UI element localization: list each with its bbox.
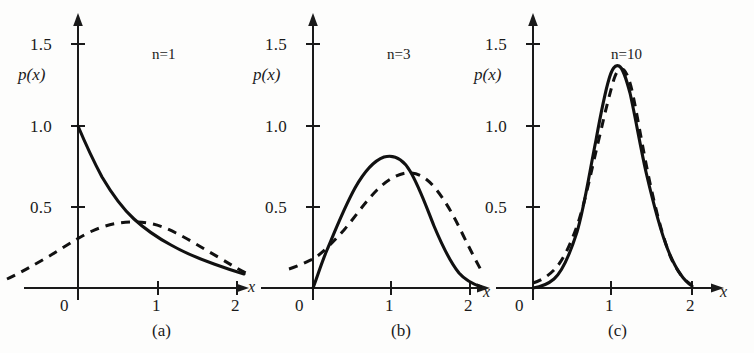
x-axis-label: x	[720, 284, 727, 300]
y-tick-label-1.0: 1.0	[265, 118, 287, 135]
panel-a: 1.5 1.0 0.5 p(x) 0 1 2 x n=1 (a)	[0, 0, 251, 353]
panel-b-annotation: n=3	[387, 47, 410, 62]
y-tick-label-1.0: 1.0	[30, 118, 52, 135]
y-axis-arrow-icon	[73, 13, 83, 26]
y-tick-label-1.5: 1.5	[265, 36, 287, 53]
x-tick-label-2: 2	[464, 297, 473, 314]
y-axis-arrow-icon	[308, 13, 318, 26]
x-tick-label-0: 0	[295, 297, 304, 314]
y-tick-label-0.5: 0.5	[485, 199, 507, 216]
panel-c: 1.5 1.0 0.5 p(x) 0 1 2 x n=10 (c)	[496, 0, 754, 353]
panel-a-annotation: n=1	[152, 47, 175, 62]
y-tick-label-0.5: 0.5	[265, 199, 287, 216]
y-tick-label-1.5: 1.5	[485, 36, 507, 53]
figure-three-panel-probability-densities: 1.5 1.0 0.5 p(x) 0 1 2 x n=1 (a) 1.5 1	[0, 0, 754, 353]
x-tick-label-0: 0	[515, 297, 524, 314]
y-tick-label-1.0: 1.0	[485, 118, 507, 135]
panel-a-solid-curve	[78, 126, 244, 274]
panel-b-caption: (b)	[391, 322, 411, 339]
x-tick-label-0: 0	[60, 297, 69, 314]
panel-b: 1.5 1.0 0.5 p(x) 0 1 2 x n=3 (b)	[251, 0, 496, 353]
x-tick-label-1: 1	[152, 297, 161, 314]
panel-a-caption: (a)	[152, 322, 171, 339]
x-tick-label-1: 1	[605, 297, 614, 314]
panel-b-plot	[251, 0, 496, 353]
panel-c-annotation: n=10	[611, 47, 642, 62]
panel-b-dashed-curve	[289, 173, 481, 270]
y-axis-label: p(x)	[253, 66, 280, 83]
y-axis-label: p(x)	[474, 66, 501, 83]
y-axis-label: p(x)	[18, 66, 45, 83]
x-tick-label-1: 1	[385, 297, 394, 314]
panel-c-caption: (c)	[608, 322, 627, 339]
panel-a-dashed-curve	[7, 222, 246, 279]
x-tick-label-2: 2	[686, 297, 695, 314]
y-axis-arrow-icon	[528, 13, 538, 26]
x-axis-label: x	[483, 284, 490, 300]
y-tick-label-0.5: 0.5	[30, 199, 52, 216]
x-tick-label-2: 2	[231, 297, 240, 314]
y-tick-label-1.5: 1.5	[30, 36, 52, 53]
